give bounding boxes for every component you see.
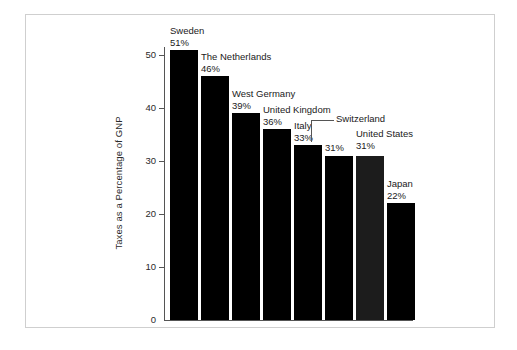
y-tick-mark-50	[159, 55, 164, 56]
annotation-name-united-states: United States	[356, 128, 413, 140]
bar-chart: Taxes as a Percentage of GNP 50 40 30 20…	[0, 0, 517, 350]
annotation-value-the-netherlands: 46%	[201, 63, 271, 75]
bar-the-netherlands	[201, 76, 229, 320]
annotation-name-sweden: Sweden	[170, 25, 204, 37]
y-tick-0: 0	[0, 320, 156, 321]
annotation-value-united-states: 31%	[356, 140, 413, 152]
y-tick-label-50: 50	[134, 50, 156, 60]
bar-united-states	[356, 156, 384, 320]
y-tick-10: 10	[0, 267, 156, 268]
annotation-value-japan: 22%	[387, 190, 413, 202]
y-tick-label-20: 20	[134, 209, 156, 219]
annotation-the-netherlands: The Netherlands 46%	[201, 51, 271, 74]
bar-italy	[294, 145, 322, 320]
y-tick-40: 40	[0, 108, 156, 109]
x-axis-line	[164, 320, 413, 321]
bar-sweden	[170, 50, 198, 320]
annotation-switzerland: Switzerland	[336, 113, 385, 125]
y-tick-label-0: 0	[134, 315, 156, 325]
y-tick-mark-20	[159, 214, 164, 215]
y-tick-label-40: 40	[134, 103, 156, 113]
bar-west-germany	[232, 113, 260, 320]
bar-united-kingdom	[263, 129, 291, 320]
y-tick-mark-40	[159, 108, 164, 109]
y-tick-label-10: 10	[134, 262, 156, 272]
annotation-name-west-germany: West Germany	[232, 88, 295, 100]
annotation-value-switzerland-wrap: 31%	[325, 142, 344, 154]
y-tick-20: 20	[0, 214, 156, 215]
switzerland-leader-line-horizontal	[311, 120, 334, 121]
y-tick-mark-30	[159, 161, 164, 162]
bar-switzerland	[325, 156, 353, 320]
y-tick-30: 30	[0, 161, 156, 162]
bar-japan	[387, 203, 415, 320]
annotation-japan: Japan 22%	[387, 178, 413, 201]
y-tick-label-30: 30	[134, 156, 156, 166]
annotation-name-the-netherlands: The Netherlands	[201, 51, 271, 63]
annotation-united-states: United States 31%	[356, 128, 413, 151]
y-axis-title: Taxes as a Percentage of GNP	[113, 116, 124, 249]
y-tick-50: 50	[0, 55, 156, 56]
y-axis-line	[164, 47, 165, 321]
annotation-name-united-kingdom: United Kingdom	[263, 104, 331, 116]
switzerland-leader-line-vertical	[311, 120, 312, 142]
annotation-value-switzerland: 31%	[325, 142, 344, 154]
annotation-value-sweden: 51%	[170, 37, 204, 49]
annotation-name-switzerland: Switzerland	[336, 113, 385, 125]
annotation-name-japan: Japan	[387, 178, 413, 190]
annotation-sweden: Sweden 51%	[170, 25, 204, 48]
y-tick-mark-10	[159, 267, 164, 268]
